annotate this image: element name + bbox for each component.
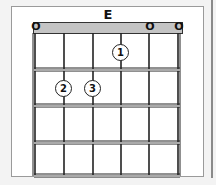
- open-string-marker-6: O: [174, 21, 184, 33]
- open-string-marker-1: O: [31, 21, 41, 33]
- finger-dot-2: 2: [55, 80, 72, 97]
- open-string-marker-5: O: [145, 21, 155, 33]
- finger-dot-1: 1: [112, 44, 129, 61]
- finger-dot-3: 3: [84, 80, 101, 97]
